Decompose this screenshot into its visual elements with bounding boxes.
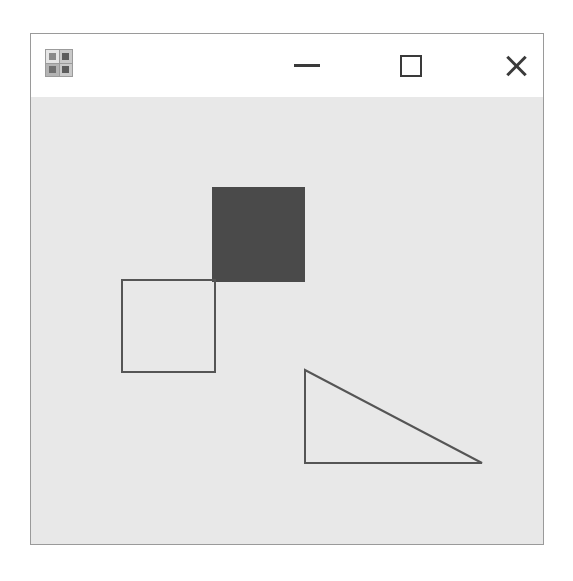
minimize-button[interactable]	[276, 34, 338, 97]
close-button[interactable]	[485, 34, 547, 97]
outlined-square[interactable]	[122, 280, 215, 372]
shape-layer	[122, 187, 482, 463]
shape-canvas[interactable]	[31, 97, 543, 544]
app-icon-tile-1	[46, 50, 59, 63]
app-icon-tile-3	[46, 64, 59, 77]
title-bar[interactable]	[31, 34, 543, 97]
maximize-button[interactable]	[380, 34, 442, 97]
app-icon-tile-4	[60, 64, 73, 77]
filled-square[interactable]	[212, 187, 305, 282]
minimize-icon	[294, 64, 320, 67]
outlined-triangle[interactable]	[305, 370, 482, 463]
drawing-canvas-area[interactable]	[31, 97, 543, 544]
close-icon	[503, 53, 529, 79]
app-icon-tile-2	[60, 50, 73, 63]
app-icon	[45, 49, 73, 77]
application-window	[30, 33, 544, 545]
maximize-icon	[400, 55, 422, 77]
